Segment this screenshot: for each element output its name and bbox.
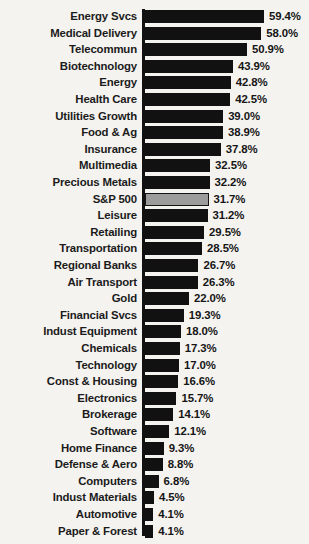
- bar-track: [145, 408, 173, 421]
- bar: [145, 508, 153, 521]
- category-label: Computers: [0, 473, 137, 490]
- category-label: Health Care: [0, 91, 137, 108]
- chart-row: Electronics15.7%: [0, 390, 309, 407]
- chart-row: Regional Banks26.7%: [0, 257, 309, 274]
- value-label: 15.7%: [181, 390, 213, 407]
- bar-track: [145, 425, 169, 438]
- chart-row: Retailing29.5%: [0, 224, 309, 241]
- value-label: 19.3%: [189, 307, 221, 324]
- bar-track: [145, 209, 208, 222]
- chart-row: Telecommun50.9%: [0, 41, 309, 58]
- bar: [145, 475, 159, 488]
- category-label: Utilities Growth: [0, 108, 137, 125]
- bar-track: [145, 342, 180, 355]
- value-label: 37.8%: [226, 141, 258, 158]
- category-label: Indust Materials: [0, 489, 137, 506]
- chart-row: Transportation28.5%: [0, 240, 309, 257]
- category-label: Insurance: [0, 141, 137, 158]
- value-label: 31.7%: [214, 191, 246, 208]
- category-label: Electronics: [0, 390, 137, 407]
- value-label: 32.2%: [215, 174, 247, 191]
- value-label: 26.3%: [203, 274, 235, 291]
- value-label: 39.0%: [228, 108, 260, 125]
- category-label: S&P 500: [0, 191, 137, 208]
- bar: [145, 76, 231, 89]
- bar: [145, 442, 164, 455]
- chart-row: Leisure31.2%: [0, 207, 309, 224]
- bar: [145, 259, 198, 272]
- category-label: Const & Housing: [0, 373, 137, 390]
- bar-track: [145, 143, 221, 156]
- value-label: 4.1%: [158, 523, 184, 540]
- category-label: Medical Delivery: [0, 25, 137, 42]
- value-label: 26.7%: [203, 257, 235, 274]
- chart-row: Chemicals17.3%: [0, 340, 309, 357]
- category-label: Technology: [0, 357, 137, 374]
- bar-track: [145, 110, 223, 123]
- value-label: 42.5%: [235, 91, 267, 108]
- chart-row: Gold22.0%: [0, 290, 309, 307]
- bar: [145, 276, 198, 289]
- chart-row: Energy Svcs59.4%: [0, 8, 309, 25]
- bar: [145, 143, 221, 156]
- bar: [145, 392, 176, 405]
- chart-row: Biotechnology43.9%: [0, 58, 309, 75]
- chart-row: Automotive4.1%: [0, 506, 309, 523]
- bar: [145, 176, 210, 189]
- bar: [145, 226, 204, 239]
- bar: [145, 110, 223, 123]
- chart-row: Paper & Forest4.1%: [0, 523, 309, 540]
- category-label: Air Transport: [0, 274, 137, 291]
- chart-row: Utilities Growth39.0%: [0, 108, 309, 125]
- horizontal-bar-chart: Energy Svcs59.4%Medical Delivery58.0%Tel…: [0, 0, 309, 544]
- bar: [145, 375, 178, 388]
- bar: [145, 359, 179, 372]
- bar-track: [145, 60, 233, 73]
- bar-track: [145, 242, 202, 255]
- value-label: 50.9%: [252, 41, 284, 58]
- value-label: 12.1%: [174, 423, 206, 440]
- category-label: Software: [0, 423, 137, 440]
- chart-row: Insurance37.8%: [0, 141, 309, 158]
- chart-row: Indust Equipment18.0%: [0, 323, 309, 340]
- bar-track: [145, 76, 231, 89]
- bar-track: [145, 392, 176, 405]
- value-label: 32.5%: [215, 157, 247, 174]
- value-label: 4.5%: [159, 489, 185, 506]
- bar: [145, 491, 154, 504]
- value-label: 18.0%: [186, 323, 218, 340]
- bar-track: [145, 10, 264, 23]
- value-label: 4.1%: [158, 506, 184, 523]
- category-label: Gold: [0, 290, 137, 307]
- bar: [145, 93, 230, 106]
- bar: [145, 27, 261, 40]
- bar-track: [145, 259, 198, 272]
- category-label: Automotive: [0, 506, 137, 523]
- value-label: 28.5%: [207, 240, 239, 257]
- value-label: 38.9%: [228, 124, 260, 141]
- chart-row: Indust Materials4.5%: [0, 489, 309, 506]
- bar: [145, 60, 233, 73]
- chart-row: Const & Housing16.6%: [0, 373, 309, 390]
- bar-track: [145, 159, 210, 172]
- bar: [145, 43, 247, 56]
- chart-row: Food & Ag38.9%: [0, 124, 309, 141]
- category-label: Home Finance: [0, 440, 137, 457]
- bar-track: [145, 325, 181, 338]
- value-label: 6.8%: [164, 473, 190, 490]
- bar-track: [145, 193, 209, 206]
- category-label: Energy: [0, 74, 137, 91]
- bar-track: [145, 475, 159, 488]
- bar: [145, 458, 163, 471]
- bar: [145, 525, 153, 538]
- bar-track: [145, 525, 153, 538]
- chart-row: Precious Metals32.2%: [0, 174, 309, 191]
- bar: [145, 408, 173, 421]
- bar-track: [145, 458, 163, 471]
- category-label: Transportation: [0, 240, 137, 257]
- category-label: Energy Svcs: [0, 8, 137, 25]
- bar: [145, 10, 264, 23]
- category-label: Regional Banks: [0, 257, 137, 274]
- chart-row: Defense & Aero8.8%: [0, 456, 309, 473]
- value-label: 16.6%: [183, 373, 215, 390]
